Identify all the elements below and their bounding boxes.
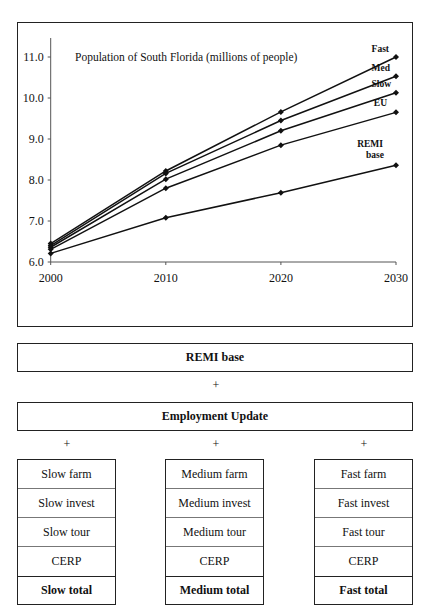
cell: Slow tour <box>18 518 115 547</box>
series-line <box>51 76 396 245</box>
data-point-marker <box>278 190 284 196</box>
medium-scenario-column: Medium farm Medium invest Medium tour CE… <box>165 459 264 605</box>
data-point-marker <box>393 109 399 115</box>
cell: CERP <box>166 547 263 576</box>
series-label: REMI <box>357 139 383 149</box>
y-tick-label: 10.0 <box>23 91 44 105</box>
population-line-chart: 6.07.08.09.010.011.02000201020202030Popu… <box>0 0 432 330</box>
plus-sign: + <box>206 378 226 393</box>
cell: Slow invest <box>18 489 115 518</box>
fast-scenario-column: Fast farm Fast invest Fast tour CERP Fas… <box>314 459 413 605</box>
y-tick-label: 8.0 <box>29 173 44 187</box>
total-cell: Medium total <box>166 576 263 604</box>
cell: Medium invest <box>166 489 263 518</box>
series-line <box>51 57 396 244</box>
plus-sign: + <box>57 437 77 452</box>
y-tick-label: 7.0 <box>29 214 44 228</box>
data-point-marker <box>278 109 284 115</box>
series-line <box>51 112 396 249</box>
remi-base-box: REMI base <box>17 343 413 372</box>
cell: CERP <box>315 547 412 576</box>
total-cell: Slow total <box>18 576 115 604</box>
employment-update-box: Employment Update <box>17 402 413 431</box>
data-point-marker <box>278 142 284 148</box>
series-line <box>51 165 396 253</box>
data-point-marker <box>163 185 169 191</box>
y-tick-label: 11.0 <box>23 50 44 64</box>
data-point-marker <box>393 54 399 60</box>
y-tick-label: 6.0 <box>29 255 44 269</box>
cell: Fast invest <box>315 489 412 518</box>
series-label: Fast <box>372 44 390 54</box>
cell: Fast tour <box>315 518 412 547</box>
y-tick-label: 9.0 <box>29 132 44 146</box>
series-label: base <box>366 150 384 160</box>
x-tick-label: 2020 <box>269 271 293 285</box>
data-point-marker <box>393 90 399 96</box>
data-point-marker <box>278 128 284 134</box>
data-point-marker <box>163 215 169 221</box>
cell: CERP <box>18 547 115 576</box>
x-tick-label: 2000 <box>39 271 63 285</box>
cell: Medium tour <box>166 518 263 547</box>
cell: Fast farm <box>315 460 412 489</box>
slow-scenario-column: Slow farm Slow invest Slow tour CERP Slo… <box>17 459 116 605</box>
series-line <box>51 93 396 248</box>
total-cell: Fast total <box>315 576 412 604</box>
x-tick-label: 2010 <box>154 271 178 285</box>
cell: Medium farm <box>166 460 263 489</box>
plus-sign: + <box>206 437 226 452</box>
data-point-marker <box>393 162 399 168</box>
cell: Slow farm <box>18 460 115 489</box>
series-label: Slow <box>371 79 391 89</box>
plus-sign: + <box>354 437 374 452</box>
series-label: Med <box>372 63 391 73</box>
series-label: EU <box>374 98 387 108</box>
data-point-marker <box>278 118 284 124</box>
data-point-marker <box>393 73 399 79</box>
employment-update-label: Employment Update <box>162 409 268 424</box>
chart-title: Population of South Florida (millions of… <box>75 51 297 64</box>
data-point-marker <box>48 250 54 256</box>
remi-base-label: REMI base <box>186 350 244 365</box>
x-tick-label: 2030 <box>384 271 408 285</box>
